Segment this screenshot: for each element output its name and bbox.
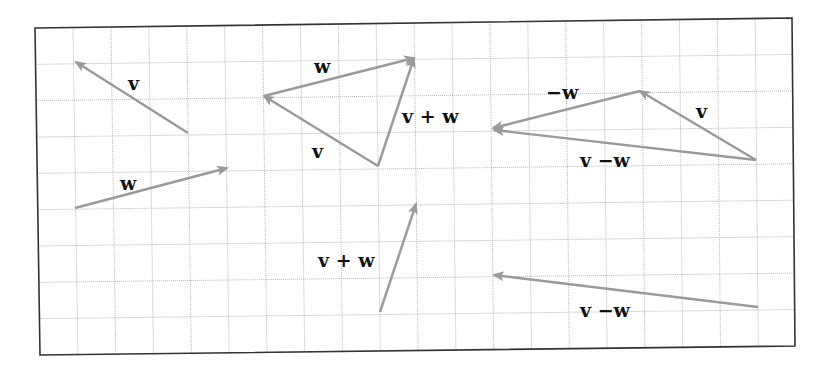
label-v-right: v (695, 100, 708, 122)
label-w-left: w (119, 172, 137, 194)
label-v-plus-w-triangle: v + w (401, 105, 459, 127)
label-v-minus-w-lower: v −w (579, 299, 631, 321)
grid-line-vertical (73, 27, 78, 354)
grid-line-vertical (566, 21, 570, 349)
grid-line-vertical (528, 21, 532, 349)
grid-line-vertical (490, 22, 494, 350)
grid-line-vertical (338, 24, 342, 351)
grid-line-vertical (263, 25, 267, 352)
grid-line-vertical (225, 25, 229, 352)
vector-diagram: v w w v v + w −w v v −w v + w v −w (0, 0, 828, 371)
grid-line-vertical (187, 26, 192, 353)
grid-line-vertical (111, 27, 116, 354)
grid-line-vertical (300, 24, 304, 351)
grid-line-vertical (755, 18, 758, 346)
label-v-triangle: v (311, 140, 324, 162)
label-v-plus-w-lower: v + w (317, 249, 375, 271)
label-w-triangle: w (313, 55, 331, 77)
grid-line-vertical (717, 19, 720, 347)
grid-line-vertical (376, 23, 380, 350)
vector-arrow-w-left (75, 168, 227, 208)
grid-line-vertical (414, 23, 418, 351)
label-neg-w-right: −w (546, 81, 579, 103)
grid-line-vertical (642, 20, 645, 348)
grid-line-vertical (452, 22, 456, 350)
grid-line-vertical (149, 26, 154, 353)
vector-arrow-vw-lower (380, 204, 416, 312)
grid (36, 18, 795, 354)
label-v-minus-w-right: v −w (579, 149, 631, 171)
label-v-left: v (127, 72, 140, 94)
